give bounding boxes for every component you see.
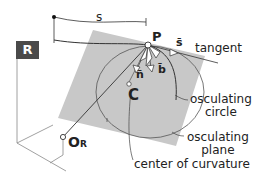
origin-subscript: R	[80, 139, 87, 149]
unit-tangent-label: s̄	[176, 37, 183, 48]
origin-label: OR	[68, 135, 87, 149]
origin-letter: O	[68, 134, 80, 150]
reference-frame-axes	[17, 59, 66, 171]
center-label: C	[128, 88, 139, 103]
normal-label: n̄	[136, 69, 144, 80]
osculating-circle-line2: circle	[190, 106, 252, 119]
osculating-plane-diagram: R s P s̄ tangent n̄ b̄ C OR osculating c…	[0, 0, 266, 178]
frame-label-box: R	[16, 41, 39, 59]
point-P	[145, 42, 151, 48]
arc-length-label: s	[96, 11, 102, 23]
binormal-label: b̄	[158, 64, 166, 75]
osculating-plane-line2: plane	[187, 144, 249, 157]
center-of-curvature-label: center of curvature	[134, 158, 250, 170]
osculating-plane-label: osculating plane	[187, 131, 249, 157]
tangent-label: tangent	[195, 42, 242, 54]
point-P-label: P	[152, 30, 162, 43]
osculating-circle-label: osculating circle	[190, 93, 252, 119]
point-O	[60, 134, 65, 139]
